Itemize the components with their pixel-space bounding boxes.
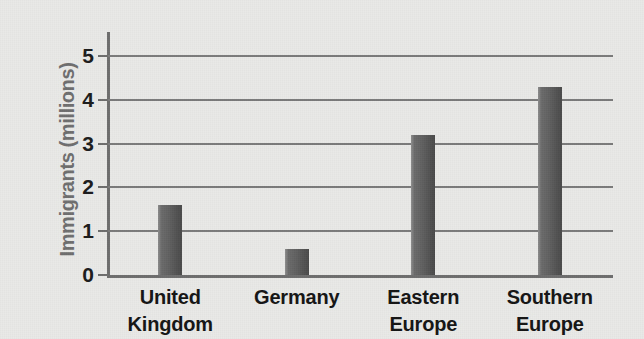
x-axis-label: EasternEurope xyxy=(360,284,487,338)
x-axis-label-line: Europe xyxy=(360,311,487,338)
y-axis-tick xyxy=(98,143,108,145)
y-axis-tick xyxy=(98,99,108,101)
x-axis-label: UnitedKingdom xyxy=(107,284,234,338)
x-axis-label-line: United xyxy=(107,284,234,311)
x-axis-label-line: Germany xyxy=(234,284,361,311)
plot-area: 012345 xyxy=(107,32,613,278)
y-axis-tick xyxy=(98,55,108,57)
y-axis-tick xyxy=(98,186,108,188)
x-axis-line xyxy=(107,275,613,278)
y-axis-title: Immigrants (millions) xyxy=(56,25,79,295)
x-axis-label-line: Eastern xyxy=(360,284,487,311)
y-axis-tick-label: 4 xyxy=(82,88,94,109)
y-axis-tick xyxy=(98,274,108,276)
x-axis-label: Germany xyxy=(234,284,361,311)
y-axis-line xyxy=(107,32,110,278)
bar xyxy=(285,249,309,275)
x-axis-label-line: Southern xyxy=(487,284,614,311)
y-axis-tick-label: 0 xyxy=(82,264,94,285)
bar xyxy=(411,135,435,275)
gridline xyxy=(107,55,613,57)
bar xyxy=(538,87,562,275)
y-axis-tick xyxy=(98,230,108,232)
x-axis-label-line: Europe xyxy=(487,311,614,338)
y-axis-tick-label: 5 xyxy=(82,45,94,66)
y-axis-tick-label: 3 xyxy=(82,132,94,153)
x-axis-label-line: Kingdom xyxy=(107,311,234,338)
x-axis-labels-group: UnitedKingdomGermanyEasternEuropeSouther… xyxy=(107,284,613,339)
chart-figure: Immigrants (millions) 012345 UnitedKingd… xyxy=(0,0,644,339)
y-axis-tick-label: 1 xyxy=(82,220,94,241)
bar xyxy=(158,205,182,275)
x-axis-label: SouthernEurope xyxy=(487,284,614,338)
y-axis-tick-label: 2 xyxy=(82,176,94,197)
